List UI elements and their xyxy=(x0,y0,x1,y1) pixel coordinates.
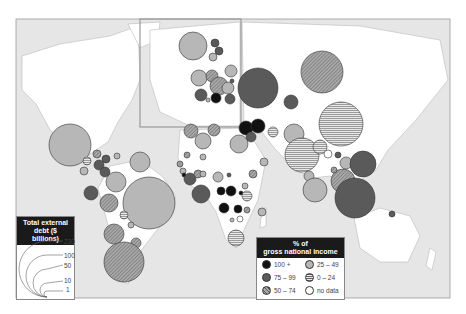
legend-swatch-icon xyxy=(262,260,271,269)
country-debt-circle xyxy=(238,68,278,108)
country-debt-circle xyxy=(324,150,332,158)
country-debt-circle xyxy=(200,171,206,177)
country-debt-circle xyxy=(211,93,221,103)
country-debt-circle xyxy=(130,152,150,172)
country-debt-circle xyxy=(83,157,91,165)
country-debt-circle xyxy=(215,47,223,55)
country-debt-circle xyxy=(184,124,198,138)
size-50: 50 xyxy=(64,262,71,269)
country-debt-circle xyxy=(209,53,217,61)
country-debt-circle xyxy=(234,205,242,213)
legend-label: no data xyxy=(317,287,339,294)
country-debt-circle xyxy=(128,222,134,228)
country-debt-circle xyxy=(225,94,235,104)
country-debt-circle xyxy=(200,154,206,160)
country-debt-circle xyxy=(230,135,248,153)
country-debt-circle xyxy=(80,167,88,175)
country-debt-circle xyxy=(100,194,118,212)
country-debt-circle xyxy=(230,79,234,83)
country-debt-circle xyxy=(237,216,243,222)
legend-swatch-icon xyxy=(305,260,314,269)
country-debt-circle xyxy=(208,124,220,136)
size-230: 230 xyxy=(64,238,75,245)
legend-swatch-icon xyxy=(305,286,314,295)
legend-label: 75 – 99 xyxy=(274,274,296,281)
country-debt-circle xyxy=(191,70,207,86)
country-debt-circle xyxy=(350,151,376,177)
legend-label: 100 + xyxy=(274,261,290,268)
country-debt-circle xyxy=(114,153,120,159)
country-debt-circle xyxy=(331,167,337,173)
country-debt-circle xyxy=(211,39,219,47)
country-debt-circle xyxy=(106,172,126,192)
country-debt-circle xyxy=(213,172,223,182)
country-debt-circle xyxy=(206,98,210,102)
country-debt-circle xyxy=(319,102,363,146)
country-debt-circle xyxy=(227,173,231,177)
country-debt-circle xyxy=(249,170,257,178)
country-debt-circle xyxy=(192,185,210,203)
country-debt-circle xyxy=(260,158,268,166)
legend-label: 50 – 74 xyxy=(274,287,296,294)
country-debt-circle xyxy=(251,119,265,133)
country-debt-circle xyxy=(335,178,375,218)
country-debt-circle xyxy=(179,32,207,60)
color-legend: % of gross national income 100 +75 – 995… xyxy=(256,237,345,300)
country-debt-circle xyxy=(195,89,207,101)
country-debt-circle xyxy=(195,133,211,149)
size-1: 1 xyxy=(66,286,70,293)
country-debt-circle xyxy=(217,187,225,195)
country-debt-circle xyxy=(303,178,327,202)
legend-swatch-icon xyxy=(305,273,314,282)
country-debt-circle xyxy=(225,65,237,77)
country-debt-circle xyxy=(219,203,229,213)
country-debt-circle xyxy=(222,82,234,94)
legend-label: 25 – 49 xyxy=(317,261,339,268)
country-debt-circle xyxy=(242,183,248,189)
country-debt-circle xyxy=(228,230,244,246)
country-debt-circle xyxy=(268,127,278,137)
country-debt-circle xyxy=(226,186,236,196)
country-debt-circle xyxy=(335,152,341,158)
country-debt-circle xyxy=(244,207,250,213)
size-10: 10 xyxy=(64,277,71,284)
country-debt-circle xyxy=(258,208,266,216)
legend-label: 0 – 24 xyxy=(317,274,335,281)
country-debt-circle xyxy=(177,161,183,167)
country-debt-circle xyxy=(104,242,144,282)
size-legend: Total external debt ($ billions) 230 100… xyxy=(16,216,75,300)
country-debt-circle xyxy=(230,218,234,222)
size-100: 100 xyxy=(64,252,75,259)
country-debt-circle xyxy=(184,152,190,158)
legend-swatch-icon xyxy=(262,286,271,295)
country-debt-circle xyxy=(104,224,124,244)
country-debt-circle xyxy=(120,211,128,219)
country-debt-circle xyxy=(284,95,298,109)
country-debt-circle xyxy=(123,177,175,229)
legend-swatch-icon xyxy=(262,273,271,282)
color-legend-title: % of gross national income xyxy=(257,238,344,258)
country-debt-circle xyxy=(84,186,98,200)
country-debt-circle xyxy=(389,211,395,217)
country-debt-circle xyxy=(242,191,252,201)
country-debt-circle xyxy=(301,51,343,93)
country-debt-circle xyxy=(93,150,101,158)
